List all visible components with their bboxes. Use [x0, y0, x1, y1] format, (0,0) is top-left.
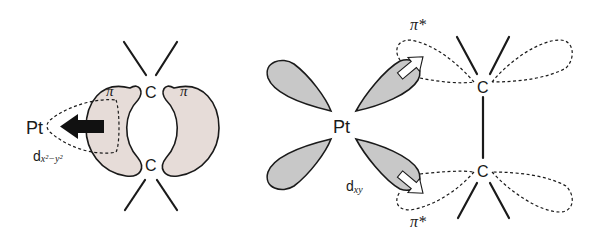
d-orbital-label-right: dxy	[346, 178, 363, 195]
pi-star-label-top: π*	[410, 16, 426, 33]
pi-star-lobe-bottom-right	[492, 172, 572, 212]
left-panel-sigma-donation: Pt dx²−y² π π C C	[26, 42, 219, 210]
carbon-bottom-right: C	[477, 163, 489, 180]
pi-star-orbitals	[397, 40, 572, 212]
carbon-top-left: C	[145, 84, 157, 101]
pi-star-label-bottom: π*	[410, 213, 426, 230]
right-panel-back-donation: Pt dxy π* π* C C	[267, 16, 572, 230]
pi-orbital-lobe-right	[162, 86, 219, 176]
pt-label-left: Pt	[26, 118, 43, 138]
pt-label-right: Pt	[333, 117, 350, 137]
d-orbital-label-left: dx²−y²	[33, 148, 63, 164]
pi-label-right: π	[180, 83, 188, 99]
left-alkene-bonds	[124, 42, 177, 210]
d-xy-lobe-upper-left	[267, 60, 331, 111]
right-alkene-bonds	[457, 37, 509, 218]
carbon-top-right: C	[477, 79, 489, 96]
d-xy-lobe-lower-left	[267, 139, 331, 190]
bonding-diagram: Pt dx²−y² π π C C	[0, 0, 594, 236]
pi-label-left: π	[106, 83, 114, 99]
carbon-bottom-left: C	[145, 157, 157, 174]
